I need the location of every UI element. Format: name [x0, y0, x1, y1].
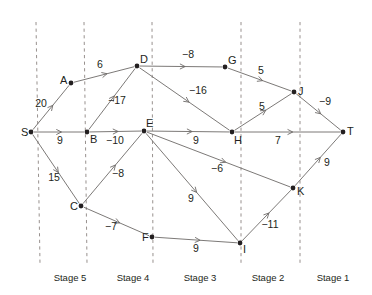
node-dot-A [69, 81, 74, 86]
node-label-G: G [228, 54, 237, 66]
edge-weight-E-I: 9 [188, 192, 194, 204]
arrowhead-icon-D-H [183, 97, 189, 102]
edge-weight-B-E: −10 [106, 134, 124, 146]
node-label-K: K [297, 185, 305, 197]
node-label-T: T [347, 125, 354, 137]
edge-weight-E-H: 9 [193, 134, 199, 146]
node-dot-B [85, 130, 90, 135]
stage-label-group: Stage 5Stage 4Stage 3Stage 2Stage 1 [54, 272, 350, 283]
edge-weight-I-K: −11 [261, 218, 278, 230]
node-dot-J [292, 90, 297, 95]
edge-I-to-K [242, 190, 291, 241]
stage-caption-4: Stage 2 [252, 272, 285, 283]
edge-weight-H-T: 7 [275, 134, 281, 146]
node-label-J: J [298, 85, 304, 97]
edge-weight-H-J: 5 [259, 100, 265, 112]
node-dot-S [29, 130, 34, 135]
node-label-B: B [90, 133, 97, 145]
node-label-C: C [70, 200, 78, 212]
stage-caption-2: Stage 4 [117, 272, 150, 283]
node-dot-T [341, 130, 346, 135]
node-group: SABCDEFGHIJKT [21, 53, 354, 255]
node-label-S: S [21, 126, 28, 138]
edge-weight-S-C: 15 [48, 171, 60, 183]
node-label-H: H [234, 134, 242, 146]
node-dot-K [291, 186, 296, 191]
edge-weight-G-J: 5 [258, 64, 264, 76]
edge-A-to-D [74, 67, 134, 83]
node-dot-C [79, 204, 84, 209]
edge-E-to-H [147, 131, 229, 132]
edge-weight-A-D: 6 [97, 58, 103, 70]
edge-B-to-E [90, 131, 141, 132]
edge-weight-B-D: −17 [108, 94, 126, 106]
node-dot-E [142, 129, 147, 134]
node-dot-I [238, 241, 243, 246]
node-dot-D [135, 64, 140, 69]
edge-S-to-C [33, 134, 80, 203]
edge-weight-S-A: 20 [35, 97, 47, 109]
edge-label-group: 209156−17−10−8−7−8−1699−69557−11−99 [35, 48, 331, 254]
node-label-A: A [60, 74, 68, 86]
node-dot-F [150, 235, 155, 240]
stage-divider-3 [152, 22, 153, 264]
node-label-F: F [142, 231, 149, 243]
stage-divider-2 [84, 22, 87, 264]
stage-caption-3: Stage 3 [184, 272, 217, 283]
edge-weight-D-H: −16 [189, 84, 207, 96]
edge-weight-E-K: −6 [211, 162, 223, 174]
edge-weight-C-E: −8 [112, 167, 124, 179]
network-diagram: 209156−17−10−8−7−8−1699−69557−11−99 SABC… [0, 0, 372, 295]
edge-weight-S-B: 9 [57, 134, 63, 146]
edge-weight-J-T: −9 [319, 95, 331, 107]
edge-weight-C-F: −7 [105, 220, 117, 232]
node-label-D: D [140, 53, 148, 65]
edge-D-to-G [140, 66, 222, 67]
edge-weight-K-T: 9 [324, 156, 330, 168]
edge-K-to-T [295, 134, 341, 186]
node-dot-G [223, 65, 228, 70]
edge-weight-F-I: 9 [193, 242, 199, 254]
node-label-E: E [146, 117, 153, 129]
node-label-I: I [243, 243, 246, 255]
stage-caption-1: Stage 5 [54, 272, 87, 283]
stage-divider-group [36, 22, 300, 264]
stage-caption-5: Stage 1 [317, 272, 350, 283]
edge-weight-D-G: −8 [182, 48, 194, 60]
